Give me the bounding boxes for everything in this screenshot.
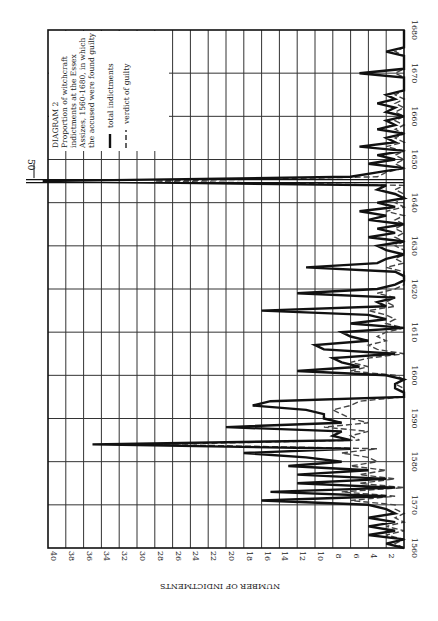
value-tick-label: 40	[49, 551, 58, 561]
legend-description-line: the accused were found guilty	[87, 32, 96, 148]
value-tick-label: 20	[227, 551, 236, 561]
year-tick-label: 1680	[410, 20, 419, 40]
year-tick-label: 1650	[410, 149, 419, 169]
legend-label-total: total indictments	[106, 63, 115, 128]
value-tick-label: 24	[191, 551, 200, 561]
year-tick-label: 1560	[410, 538, 419, 558]
chart: DIAGRAM 2Proportion of witchcraftindictm…	[0, 0, 438, 621]
legend-label-guilty: verdict of guilty	[122, 63, 131, 125]
value-tick-label: 10	[316, 551, 325, 561]
year-tick-label: 1660	[410, 106, 419, 126]
year-tick-label: 1610	[410, 322, 419, 342]
value-tick-label: 32	[120, 551, 129, 561]
value-tick-label: 6	[352, 553, 361, 558]
value-tick-label: 30	[138, 551, 147, 561]
value-tick-label: 2	[387, 553, 396, 558]
value-axis-label: NUMBER OF INDICTMENTS	[160, 582, 280, 591]
value-tick-label: 28	[156, 551, 165, 561]
value-tick-label: 14	[280, 551, 289, 561]
year-tick-label: 1600	[410, 365, 419, 385]
value-tick-label: 8	[334, 553, 343, 558]
value-axis-ticks: 403836343230282624222018161412108642	[49, 551, 396, 561]
year-axis-ticks: 1560157015801590160016101620163016401650…	[410, 20, 419, 558]
legend-title: DIAGRAM 2	[51, 101, 60, 148]
legend-description-line: Proportion of witchcraft	[60, 56, 69, 148]
year-tick-label: 1570	[410, 495, 419, 515]
year-tick-label: 1640	[410, 192, 419, 212]
value-tick-label: 4	[369, 553, 378, 558]
value-tick-label: 16	[263, 551, 272, 561]
value-tick-label: 38	[67, 551, 76, 561]
value-tick-label: 12	[298, 551, 307, 561]
year-tick-label: 1630	[410, 236, 419, 256]
legend-description-line: indictments at the Essex	[69, 54, 78, 148]
year-tick-label: 1590	[410, 408, 419, 428]
legend-description-line: Assizes, 1560-1680, in which	[78, 38, 87, 149]
year-tick-label: 1580	[410, 451, 419, 471]
value-tick-label: 36	[85, 551, 94, 561]
overflow-marker-label: 50	[26, 159, 36, 171]
overflow-marker: 50	[26, 159, 404, 183]
value-tick-label: 26	[174, 551, 183, 561]
year-tick-label: 1620	[410, 279, 419, 299]
value-tick-label: 18	[245, 551, 254, 561]
year-tick-label: 1670	[410, 63, 419, 83]
value-tick-label: 22	[209, 551, 218, 561]
value-tick-label: 34	[102, 551, 111, 561]
